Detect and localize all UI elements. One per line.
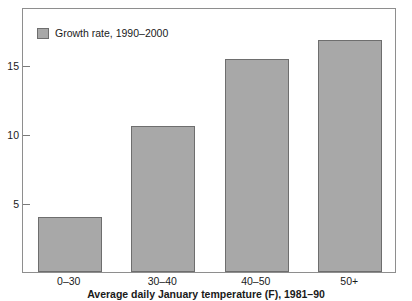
bar bbox=[38, 217, 102, 272]
chart-legend: Growth rate, 1990–2000 bbox=[37, 28, 168, 39]
plot-inner: Growth rate, 1990–2000 bbox=[23, 9, 395, 272]
y-axis-tick-mark bbox=[23, 204, 30, 205]
legend-label: Growth rate, 1990–2000 bbox=[55, 28, 168, 39]
x-axis-tick-label: 0–30 bbox=[57, 276, 80, 287]
bar bbox=[318, 40, 382, 272]
y-axis-tick-label: 10 bbox=[7, 130, 19, 141]
bar bbox=[225, 59, 289, 272]
y-axis-tick-label: 15 bbox=[7, 61, 19, 72]
bar bbox=[131, 126, 195, 272]
x-axis-tick-label: 30–40 bbox=[148, 276, 177, 287]
y-axis-tick-label: 5 bbox=[13, 199, 19, 210]
y-axis-tick-mark bbox=[23, 66, 30, 67]
y-axis: 15105 bbox=[0, 0, 19, 301]
x-axis-tick-label: 40–50 bbox=[241, 276, 270, 287]
plot-area: Growth rate, 1990–2000 bbox=[22, 8, 396, 273]
bar-chart: 15105 Growth rate, 1990–2000 0–3030–4040… bbox=[0, 0, 412, 301]
x-axis-tick-label: 50+ bbox=[340, 276, 358, 287]
y-axis-tick-mark bbox=[23, 135, 30, 136]
x-axis-title: Average daily January temperature (F), 1… bbox=[0, 289, 412, 300]
legend-color-swatch bbox=[37, 28, 49, 39]
